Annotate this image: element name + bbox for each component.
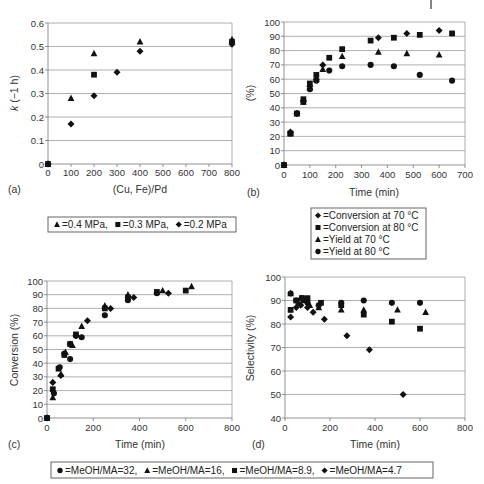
data-point-square — [125, 295, 131, 301]
x-tick-label: 700 — [457, 169, 473, 180]
data-point-circle — [391, 63, 397, 69]
x-tick-label: 500 — [405, 169, 421, 180]
data-point-diamond — [310, 309, 317, 316]
y-tick-label: 90 — [269, 31, 280, 42]
x-tick-label: 0 — [282, 422, 287, 433]
y-tick-label: 0.3 — [31, 88, 44, 99]
legend-cd: =MeOH/MA=32,=MeOH/MA=16,=MeOH/MA=8.9,=Me… — [51, 462, 433, 478]
data-point-square — [339, 46, 345, 52]
figure: 00.10.20.30.40.50.6010020030040050060070… — [0, 0, 484, 484]
y-tick-label: 0 — [275, 160, 280, 171]
legend-label: =Yield at 80 °C — [323, 246, 390, 257]
data-point-diamond — [84, 317, 91, 324]
panel-a: 00.10.20.30.40.50.6010020030040050060070… — [8, 18, 240, 196]
y-tick-label: 80 — [32, 303, 43, 314]
legend-label: =MeOH/MA=4.7 — [330, 465, 403, 476]
legend-a: =0.4 MPa,=0.3 MPa,=0.2 MPa — [48, 217, 236, 232]
y-axis-label: Conversion (%) — [8, 314, 20, 386]
data-point-diamond — [375, 34, 382, 41]
data-point-diamond — [67, 121, 74, 128]
x-tick-label: 200 — [86, 167, 102, 178]
data-point-circle — [79, 334, 85, 340]
legend-label: =MeOH/MA=32, — [65, 465, 137, 476]
x-tick-label: 100 — [63, 167, 79, 178]
data-point-circle — [417, 72, 423, 78]
y-tick-label: 0 — [39, 159, 44, 170]
data-point-circle — [287, 131, 293, 137]
data-point-circle — [102, 312, 108, 318]
data-point-diamond — [49, 379, 56, 386]
x-tick-label: 600 — [431, 169, 447, 180]
data-point-square — [305, 295, 311, 301]
y-tick-label: 70 — [270, 342, 281, 353]
data-point-square — [91, 72, 97, 78]
x-tick-label: 800 — [224, 422, 240, 433]
y-tick-label: 70 — [269, 59, 280, 70]
x-tick-label: 600 — [178, 167, 194, 178]
data-point-circle — [313, 78, 319, 84]
data-point-square — [361, 312, 367, 318]
data-point-triangle — [394, 306, 401, 312]
y-tick-label: 60 — [32, 330, 43, 341]
data-point-square — [391, 35, 397, 41]
x-axis-label: (Cu, Fe)/Pd — [113, 183, 167, 195]
x-tick-label: 0 — [281, 169, 286, 180]
data-point-square — [326, 55, 332, 61]
y-tick-label: 50 — [270, 389, 281, 400]
data-point-square — [299, 295, 305, 301]
data-point-circle — [307, 86, 313, 92]
panel-label: (b) — [247, 186, 260, 198]
y-tick-label: 50 — [269, 88, 280, 99]
legend-marker-circle — [315, 249, 320, 254]
y-tick-label: 30 — [32, 371, 43, 382]
x-tick-label: 0 — [44, 422, 49, 433]
data-point-square — [318, 300, 324, 306]
y-tick-label: 20 — [32, 385, 43, 396]
y-tick-label: 10 — [32, 399, 43, 410]
y-tick-label: 80 — [270, 319, 281, 330]
data-point-diamond — [57, 372, 64, 379]
y-tick-label: 10 — [269, 145, 280, 156]
data-point-circle — [294, 110, 300, 116]
data-point-square — [449, 31, 455, 37]
data-point-triangle — [422, 309, 429, 315]
data-point-square — [338, 302, 344, 308]
data-point-square — [293, 298, 299, 304]
x-tick-label: 400 — [379, 169, 395, 180]
x-tick-label: 400 — [367, 422, 383, 433]
y-axis-label: Selectivity (%) — [244, 315, 256, 382]
legend-label: =0.4 MPa, — [62, 219, 108, 230]
legend-label: =Conversion at 70 °C — [323, 210, 418, 221]
y-tick-label: 40 — [270, 413, 281, 424]
y-tick-label: 20 — [269, 131, 280, 142]
panel-label: (a) — [8, 183, 21, 195]
y-tick-label: 80 — [269, 45, 280, 56]
data-point-square — [102, 306, 108, 312]
data-point-triangle — [375, 48, 382, 54]
panel-label: (c) — [8, 438, 20, 450]
legend-marker-square — [232, 468, 237, 473]
legend-marker-square — [315, 225, 320, 230]
y-tick-label: 60 — [270, 366, 281, 377]
y-tick-label: 30 — [269, 117, 280, 128]
data-point-circle — [361, 297, 367, 303]
data-point-diamond — [165, 290, 172, 297]
y-axis-label: (%) — [244, 85, 256, 101]
y-tick-label: 0.1 — [31, 135, 44, 146]
data-point-circle — [281, 162, 287, 168]
panel-label: (d) — [252, 438, 265, 450]
legend-label: =MeOH/MA=8.9, — [240, 465, 315, 476]
panel-b: 0102030405060708090100010020030040050060… — [244, 17, 473, 199]
y-tick-label: 0.2 — [31, 112, 44, 123]
x-axis-label: Time (min) — [350, 438, 400, 450]
data-point-circle — [389, 300, 395, 306]
data-point-square — [56, 366, 62, 372]
x-tick-label: 200 — [328, 169, 344, 180]
data-point-square — [389, 319, 395, 325]
y-tick-label: 0.5 — [31, 41, 44, 52]
y-tick-label: 70 — [32, 317, 43, 328]
legend-label: =Conversion at 80 °C — [323, 222, 418, 233]
data-point-diamond — [436, 27, 443, 34]
legend-marker-square — [115, 222, 120, 227]
data-point-circle — [368, 62, 374, 68]
